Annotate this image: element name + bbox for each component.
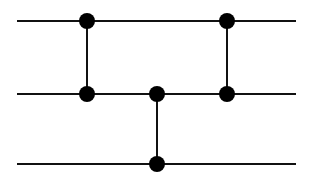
node-1 <box>79 13 95 29</box>
node-2 <box>219 13 235 29</box>
node-4 <box>149 86 165 102</box>
node-5 <box>219 86 235 102</box>
sorting-network-diagram <box>0 0 314 185</box>
node-3 <box>79 86 95 102</box>
node-6 <box>149 156 165 172</box>
